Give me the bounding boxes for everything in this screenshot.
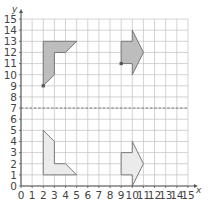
y-tick-label: 3 [10,146,17,158]
x-tick-label: 9 [118,189,125,201]
y-tick-label: 0 [10,180,17,192]
y-tick-label: 9 [10,80,17,92]
x-tick-label: 15 [181,189,194,201]
y-tick-label: 12 [4,46,17,58]
x-tick-label: 7 [96,189,103,201]
y-tick-label: 2 [10,158,17,170]
y-tick-label: 11 [4,57,17,69]
x-axis-label: x [195,185,202,195]
y-tick-label: 7 [10,102,17,114]
y-axis-arrow-icon [19,9,23,13]
marked-point-icon [120,62,123,65]
x-tick-label: 1 [29,189,36,201]
x-tick-label: 0 [18,189,25,201]
y-tick-label: 14 [4,24,18,36]
x-tick-label: 3 [51,189,58,201]
x-tick-label: 5 [73,189,80,201]
y-tick-label: 8 [10,91,17,103]
y-tick-label: 6 [10,113,17,125]
y-tick-label: 15 [4,13,17,25]
tick-labels: 0123456789101112131415012345678910111213… [4,4,202,201]
y-tick-label: 5 [10,124,17,136]
y-tick-label: 1 [10,169,17,181]
marked-point-icon [42,84,45,87]
y-tick-label: 13 [4,35,17,47]
lower-right-arrow [121,141,143,186]
y-tick-label: 4 [10,135,17,147]
y-tick-label: 10 [4,69,17,81]
upper-right-arrow [121,30,143,75]
x-tick-label: 2 [40,189,47,201]
coordinate-grid: 0123456789101112131415012345678910111213… [0,0,209,206]
x-tick-label: 4 [62,189,69,201]
x-tick-label: 8 [107,189,114,201]
y-axis-label: y [11,4,18,14]
x-tick-label: 6 [84,189,91,201]
